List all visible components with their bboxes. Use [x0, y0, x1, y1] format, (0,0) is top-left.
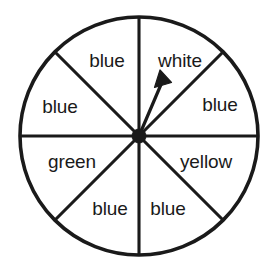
sector-label-left-lower: green	[48, 151, 96, 172]
sector-label-bottom-left: blue	[92, 198, 128, 219]
spinner-diagram: white blue yellow blue blue green blue b…	[0, 0, 276, 272]
spinner-center-hub	[132, 129, 146, 143]
sector-label-left-upper: blue	[42, 96, 78, 117]
sector-label-bottom-right: blue	[150, 198, 186, 219]
sector-label-right-lower: yellow	[180, 151, 233, 172]
spinner-figure: white blue yellow blue blue green blue b…	[0, 0, 276, 272]
sector-label-top-right: white	[157, 50, 202, 71]
sector-label-top-left: blue	[89, 50, 125, 71]
sector-label-right-upper: blue	[202, 94, 238, 115]
